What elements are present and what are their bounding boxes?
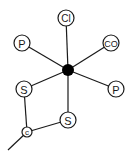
atom-label: P — [112, 84, 119, 96]
chemical-structure-diagram: ClPCOPSSc — [0, 0, 133, 159]
atom-cl: Cl — [58, 10, 74, 26]
atom-label: S — [64, 115, 71, 127]
atom-label: P — [18, 38, 25, 50]
atom-co: CO — [103, 35, 119, 51]
atom-label: CO — [104, 39, 118, 49]
metal-center-dot — [62, 64, 74, 76]
atom-p2: P — [108, 81, 124, 97]
atom-s2: S — [60, 112, 76, 128]
atom-c: c — [22, 127, 32, 137]
atom-p1: P — [14, 35, 30, 51]
atom-label: c — [25, 128, 29, 137]
atoms-group: ClPCOPSSc — [14, 10, 124, 137]
atom-label: S — [20, 84, 27, 96]
atom-label: Cl — [61, 13, 70, 24]
atom-s1: S — [16, 81, 32, 97]
